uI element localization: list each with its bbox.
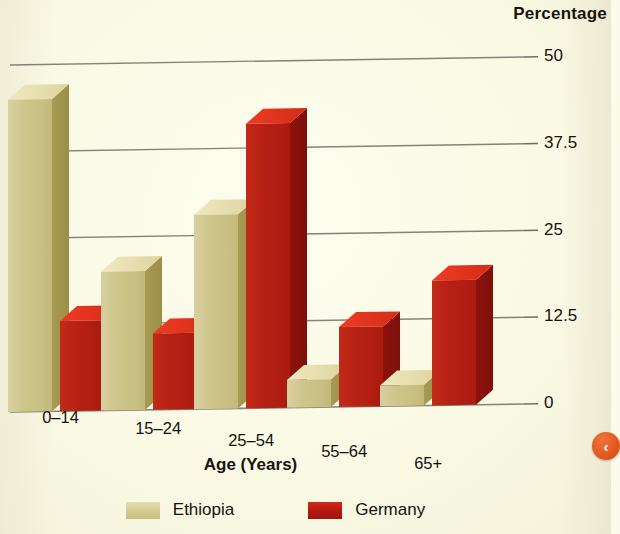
bar-front-face <box>153 333 197 410</box>
bar-side-face <box>476 265 493 405</box>
bar-Germany-65+ <box>432 265 493 406</box>
chart-legend: Ethiopia Germany <box>0 500 611 520</box>
bar-front-face <box>246 123 290 408</box>
bar-front-face <box>60 320 104 411</box>
bar-front-face <box>194 214 238 409</box>
x-axis-tick-label: 15–24 <box>135 419 181 438</box>
y-axis-tick-label: 25 <box>544 220 563 240</box>
x-axis-tick-label: 0–14 <box>42 408 79 427</box>
bar-Ethiopia-15–24 <box>101 256 162 410</box>
legend-label-ethiopia: Ethiopia <box>173 500 234 520</box>
legend-swatch-ethiopia <box>126 502 160 519</box>
bar-Ethiopia-25–54 <box>194 199 255 409</box>
bar-side-face <box>290 108 307 408</box>
x-axis-tick-label: 25–54 <box>228 431 274 450</box>
bar-front-face <box>8 99 52 412</box>
y-axis-tick-label: 37.5 <box>544 133 577 153</box>
bar-front-face <box>287 379 331 407</box>
legend-item-germany: Germany <box>308 500 425 520</box>
gridline <box>10 57 524 65</box>
bar-Ethiopia-0–14 <box>8 84 69 412</box>
bars-group <box>8 84 493 412</box>
x-axis-title: Age (Years) <box>0 455 611 475</box>
legend-label-germany: Germany <box>355 500 425 520</box>
chevron-left-icon: ‹ <box>604 439 609 454</box>
bar-front-face <box>432 280 476 406</box>
legend-swatch-germany <box>308 502 342 519</box>
legend-item-ethiopia: Ethiopia <box>126 500 234 520</box>
bar-front-face <box>101 271 145 410</box>
bar-front-face <box>380 385 424 407</box>
y-axis-tick-label: 12.5 <box>544 306 577 326</box>
y-axis-tick-label: 50 <box>544 46 563 66</box>
bar-front-face <box>339 326 383 406</box>
previous-page-button[interactable]: ‹ <box>592 432 620 460</box>
y-axis-tick-label: 0 <box>544 393 553 413</box>
bar-Germany-25–54 <box>246 108 307 408</box>
y-axis-title: Percentage <box>513 4 607 24</box>
